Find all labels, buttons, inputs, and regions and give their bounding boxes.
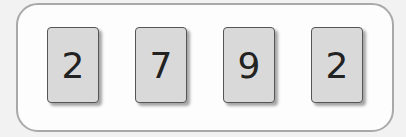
number-card-3: 9 <box>223 27 275 103</box>
number-card-2: 7 <box>135 27 187 103</box>
number-card-4: 2 <box>311 27 363 103</box>
number-card-1: 2 <box>47 27 99 103</box>
